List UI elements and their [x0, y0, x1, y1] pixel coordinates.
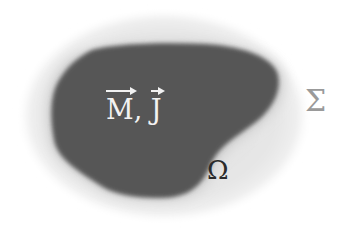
vector-arrow-icon	[106, 90, 134, 92]
vector-j-symbol: J	[151, 94, 162, 125]
sigma-label: Σ	[305, 86, 326, 116]
vector-separator: ,	[134, 94, 143, 125]
omega-label: Ω	[207, 157, 229, 183]
vector-arrow-icon	[151, 90, 162, 92]
sources-label: M , J	[106, 96, 162, 123]
vector-m-symbol: M	[106, 94, 134, 125]
vector-m: M	[106, 96, 134, 123]
diagram-canvas: M , J Σ Ω	[0, 0, 358, 232]
vector-j: J	[151, 96, 162, 123]
